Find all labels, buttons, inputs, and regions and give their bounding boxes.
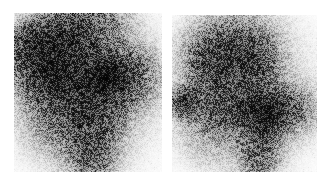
- scan-panel-right[interactable]: [172, 15, 317, 172]
- scan-image-left: [14, 13, 162, 172]
- scan-panel-left[interactable]: [14, 13, 162, 172]
- scintigraphy-figure: [0, 0, 329, 184]
- scan-image-right: [172, 15, 317, 172]
